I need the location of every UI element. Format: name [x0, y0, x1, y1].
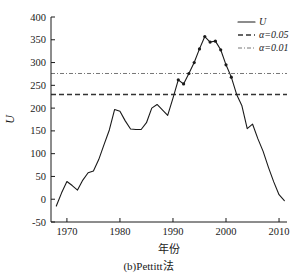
- series-group: [56, 37, 284, 206]
- series-marker: [214, 40, 217, 43]
- y-tick-label: 100: [30, 148, 46, 159]
- y-tick-label: 250: [30, 80, 46, 91]
- threshold-lines: [51, 73, 287, 94]
- series-marker: [230, 76, 233, 79]
- chart-canvas: 19701980199020002010 -500501001502002503…: [0, 0, 297, 276]
- x-tick-label: 2010: [269, 226, 290, 237]
- x-tick-label: 1970: [56, 226, 77, 237]
- y-tick-label: 400: [30, 12, 46, 23]
- y-tick-label: 150: [30, 125, 46, 136]
- y-tick-label: -50: [32, 217, 46, 228]
- figure-pettitt-chart: 19701980199020002010 -500501001502002503…: [0, 0, 297, 276]
- series-marker: [187, 72, 190, 75]
- series-marker: [209, 40, 212, 43]
- y-tick-label: 200: [30, 103, 46, 114]
- figure-caption: (b)Pettitt法: [123, 259, 173, 273]
- series-marker: [224, 63, 227, 66]
- legend-label: α=0.05: [259, 29, 289, 40]
- series-marker: [203, 35, 206, 38]
- x-axis-label: 年份: [158, 242, 180, 255]
- y-tick-label: 350: [30, 34, 46, 45]
- x-tick-label: 1990: [162, 226, 183, 237]
- series-line-u: [56, 37, 284, 206]
- y-tick-label: 0: [41, 194, 46, 205]
- x-tick-label: 2000: [216, 226, 237, 237]
- y-tick-label: 50: [36, 171, 47, 182]
- series-marker: [198, 47, 201, 50]
- series-marker: [182, 82, 185, 85]
- y-tick-label: 300: [30, 57, 46, 68]
- series-marker: [219, 48, 222, 51]
- y-axis-label: U: [3, 114, 17, 124]
- legend-label: α=0.01: [259, 42, 289, 53]
- legend-label: U: [259, 16, 267, 27]
- x-tick-label: 1980: [109, 226, 130, 237]
- series-marker: [177, 78, 180, 81]
- series-marker: [193, 61, 196, 64]
- x-axis-ticks: 19701980199020002010: [56, 218, 289, 237]
- axis-spines: [51, 17, 287, 222]
- axes-group: [51, 17, 287, 222]
- legend: Uα=0.05α=0.01: [238, 16, 289, 53]
